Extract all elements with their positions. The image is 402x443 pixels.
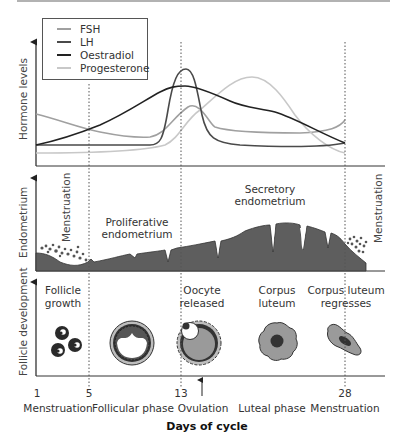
corpus-luteum-icon — [259, 323, 297, 361]
tick-day-5: 5 — [86, 387, 93, 399]
lh-swatch-icon — [57, 41, 71, 43]
stage-label: released — [180, 297, 225, 309]
ovulating-follicle-icon — [177, 321, 221, 365]
proliferative-label-line1: Proliferative — [105, 216, 168, 228]
stage-label: regresses — [321, 297, 372, 309]
legend-item-oestradiol: Oestradiol — [43, 48, 147, 62]
lh-curve — [36, 69, 345, 147]
phase-luteal: Luteal phase — [238, 402, 305, 414]
legend-label: Progesterone — [80, 61, 149, 75]
stage-label: luteum — [258, 297, 295, 309]
follicle-development-label: Follicle development — [17, 267, 29, 376]
tick-day-28: 28 — [338, 387, 351, 399]
fsh-swatch-icon — [57, 28, 71, 30]
legend-label: Oestradiol — [80, 48, 134, 62]
endometrium-panel — [36, 178, 385, 271]
endometrium-tissue — [36, 223, 366, 271]
legend-label: FSH — [80, 22, 100, 36]
graafian-follicle-icon — [110, 321, 154, 365]
legend-label: LH — [80, 35, 94, 49]
phase-follicular: Follicular phase — [92, 402, 174, 414]
secretory-label-line1: Secretory — [245, 183, 296, 195]
stage-label: Corpus luteum — [307, 284, 384, 296]
phase-menstruation: Menstruation — [23, 402, 92, 414]
phase-ovulation: Ovulation — [178, 402, 229, 414]
stage-label: Corpus — [259, 284, 296, 296]
menstruation-left-label: Menstruation — [60, 173, 72, 242]
stage-label: Oocyte — [183, 284, 220, 296]
endometrium-label: Endometrium — [17, 187, 29, 258]
legend-item-fsh: FSH — [43, 22, 147, 36]
legend-item-progesterone: Progesterone — [43, 61, 147, 75]
phase-menstruation-end: Menstruation — [310, 402, 379, 414]
secretory-label-line2: endometrium — [234, 195, 305, 207]
stage-label: Follicle — [45, 284, 81, 296]
progesterone-swatch-icon — [57, 67, 71, 69]
primary-follicles-icon — [51, 326, 82, 357]
regressing-corpus-luteum-icon — [327, 324, 361, 355]
stage-label: growth — [45, 297, 82, 309]
progesterone-curve — [36, 77, 345, 153]
oestradiol-curve — [36, 86, 345, 145]
x-axis-title: Days of cycle — [166, 420, 247, 433]
proliferative-label-line2: endometrium — [101, 228, 172, 240]
oestradiol-swatch-icon — [57, 54, 71, 56]
legend: FSH LH Oestradiol Progesterone — [42, 18, 148, 80]
tick-day-1: 1 — [34, 387, 41, 399]
tick-day-13: 13 — [174, 387, 187, 399]
hormone-levels-label: Hormone levels — [17, 58, 29, 140]
legend-item-lh: LH — [43, 35, 147, 49]
menstruation-right-label: Menstruation — [372, 174, 384, 243]
